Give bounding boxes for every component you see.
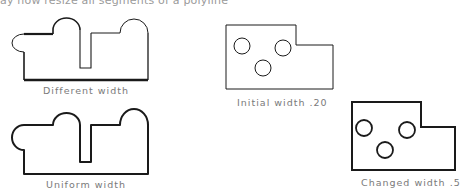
hole-circle [234,38,250,54]
caption-different-width: Different width [43,85,129,96]
hole-circle [356,120,372,136]
hole-circle [377,142,393,158]
initial-width-polyline [226,25,333,89]
caption-uniform-width: Uniform width [46,179,126,190]
caption-changed-width: Changed width .5 [361,177,461,188]
hole-circle [399,122,415,138]
hole-circle [275,40,291,56]
drawing-canvas [0,0,467,192]
different-width-polyline [12,18,148,80]
hole-circle [255,60,271,76]
changed-width-polyline [352,102,455,170]
caption-initial-width: Initial width .20 [237,97,328,108]
uniform-width-polyline [12,109,148,174]
